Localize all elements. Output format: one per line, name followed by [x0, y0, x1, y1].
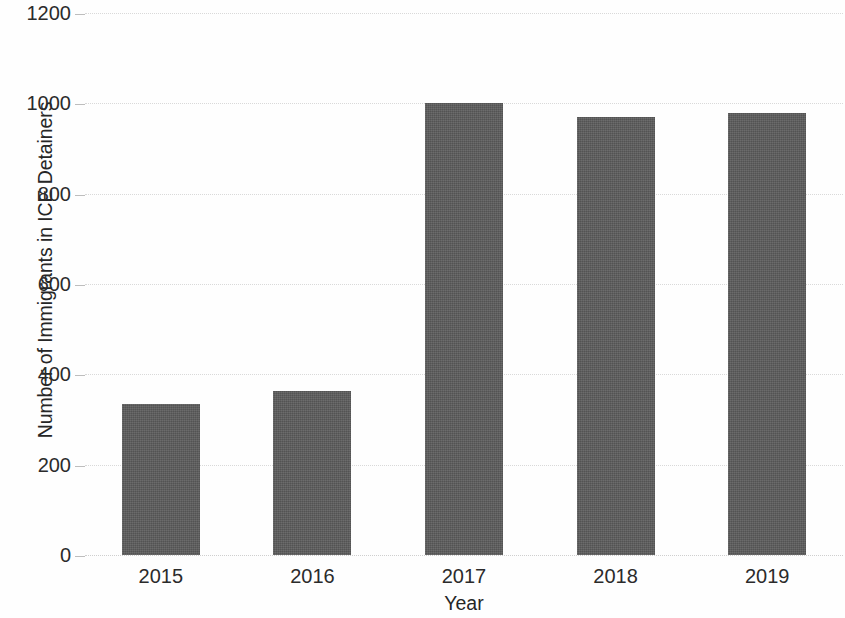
- x-tick-label-2019: 2019: [745, 565, 790, 588]
- x-axis-title: Year: [85, 592, 843, 615]
- bar-2016: [273, 391, 351, 555]
- y-tick-label-200: 200: [38, 453, 71, 476]
- bar-chart-figure: Number of Immigrants in ICE Detainers 02…: [0, 0, 845, 618]
- y-tick-mark-200: [75, 466, 85, 467]
- y-tick-mark-800: [75, 195, 85, 196]
- gridline-0: [85, 555, 843, 556]
- y-tick-mark-600: [75, 285, 85, 286]
- x-tick-label-2016: 2016: [290, 565, 335, 588]
- x-tick-label-2015: 2015: [139, 565, 184, 588]
- y-tick-label-1200: 1200: [27, 2, 72, 25]
- y-tick-mark-400: [75, 375, 85, 376]
- y-tick-mark-0: [75, 556, 85, 557]
- y-tick-label-400: 400: [38, 363, 71, 386]
- x-tick-label-2018: 2018: [593, 565, 638, 588]
- x-tick-label-2017: 2017: [442, 565, 487, 588]
- bar-2019: [728, 113, 806, 555]
- bar-2017: [425, 103, 503, 555]
- y-tick-mark-1000: [75, 104, 85, 105]
- plot-area: 020040060080010001200 201520162017201820…: [85, 13, 843, 555]
- bar-2018: [577, 117, 655, 555]
- y-tick-label-600: 600: [38, 273, 71, 296]
- y-tick-label-800: 800: [38, 182, 71, 205]
- gridline-1200: [85, 13, 843, 14]
- bar-2015: [122, 404, 200, 555]
- y-tick-label-1000: 1000: [27, 92, 72, 115]
- y-tick-mark-1200: [75, 14, 85, 15]
- y-tick-label-0: 0: [60, 544, 71, 567]
